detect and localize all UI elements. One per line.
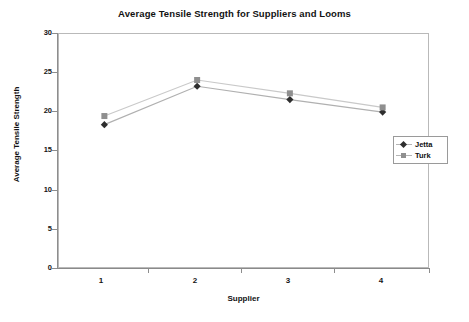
y-axis-title: Average Tensile Strength [12,85,21,185]
y-axis-tick-labels: 30 25 20 15 10 5 0 [26,0,52,322]
diamond-marker-icon [396,140,412,149]
x-axis-title: Supplier [58,294,429,303]
y-tick-label-0: 0 [32,264,52,272]
x-tick-mark-4 [429,268,430,273]
legend-item-jetta[interactable]: Jetta [396,139,447,150]
x-tick-mark-2 [241,268,242,273]
y-tick-label-30: 30 [32,29,52,37]
x-tick-label-3: 3 [273,276,303,285]
y-tick-mark-25 [52,72,57,73]
chart-title: Average Tensile Strength for Suppliers a… [0,8,469,19]
y-tick-label-15: 15 [32,146,52,154]
x-tick-mark-1 [148,268,149,273]
plot-area [58,33,429,268]
square-marker-icon [396,151,412,160]
x-tick-label-4: 4 [366,276,396,285]
y-tick-label-5: 5 [32,225,52,233]
y-axis-line [57,33,58,269]
y-tick-label-20: 20 [32,107,52,115]
y-tick-label-10: 10 [32,186,52,194]
y-tick-mark-15 [52,150,57,151]
y-tick-label-25: 25 [32,68,52,76]
x-tick-mark-3 [334,268,335,273]
y-tick-mark-20 [52,111,57,112]
x-tick-label-2: 2 [180,276,210,285]
chart-legend: Jetta Turk [393,136,448,164]
legend-item-turk[interactable]: Turk [396,150,447,161]
legend-label-jetta: Jetta [412,140,433,149]
y-tick-mark-30 [52,33,57,34]
y-tick-mark-5 [52,229,57,230]
legend-label-turk: Turk [412,151,431,160]
chart-container: Average Tensile Strength for Suppliers a… [0,0,469,322]
x-tick-label-1: 1 [86,276,116,285]
y-tick-mark-0 [52,268,57,269]
y-tick-mark-10 [52,190,57,191]
x-axis-line [57,268,430,269]
